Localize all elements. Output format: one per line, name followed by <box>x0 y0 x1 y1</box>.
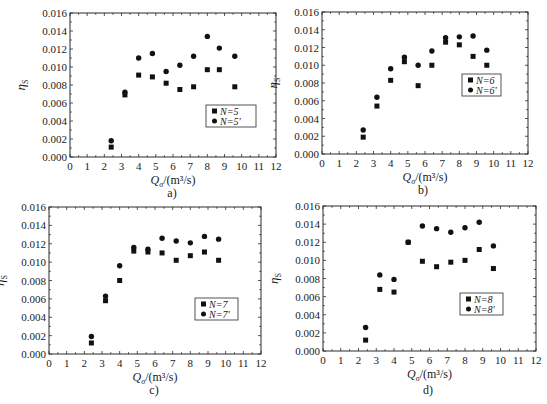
x-tick-label: 3 <box>371 157 377 169</box>
x-tick-label: 11 <box>254 160 265 172</box>
data-point-circle <box>205 34 210 39</box>
x-tick-label: 2 <box>356 354 362 366</box>
data-point-square <box>491 266 496 271</box>
x-tick-label: 5 <box>135 357 141 369</box>
data-point-square <box>420 259 425 264</box>
data-point-circle <box>145 247 150 252</box>
x-tick-label: 12 <box>256 357 267 369</box>
legend-circle-icon <box>212 119 217 124</box>
x-tick-label: 6 <box>422 157 428 169</box>
data-point-square <box>448 260 453 265</box>
chart-panel-d: 01234567891011120.0000.0020.0040.0060.00… <box>266 200 542 397</box>
data-point-square <box>117 278 122 283</box>
x-axis-label: Qσ/(m³/s) <box>407 367 452 383</box>
x-tick-label: 8 <box>205 160 211 172</box>
data-point-circle <box>484 47 489 52</box>
y-tick-label: 0.010 <box>42 61 67 73</box>
data-point-square <box>361 135 366 140</box>
data-point-circle <box>361 127 366 132</box>
data-point-square <box>484 63 489 68</box>
data-point-circle <box>391 277 396 282</box>
data-point-circle <box>163 69 168 74</box>
y-tick-label: 0.016 <box>295 200 320 212</box>
y-tick-label: 0.016 <box>294 6 319 18</box>
x-tick-label: 10 <box>495 354 507 366</box>
x-tick-label: 6 <box>152 357 158 369</box>
data-point-circle <box>174 238 179 243</box>
x-tick-label: 9 <box>474 157 480 169</box>
chart-panel-b: 01234567891011120.0000.0020.0040.0060.00… <box>265 6 534 197</box>
x-tick-label: 10 <box>236 160 248 172</box>
data-point-circle <box>131 245 136 250</box>
panel-label: b) <box>418 183 428 197</box>
data-point-circle <box>457 34 462 39</box>
data-point-square <box>109 145 114 150</box>
panel-label: c) <box>149 383 158 397</box>
data-point-circle <box>89 334 94 339</box>
y-tick-label: 0.012 <box>42 43 67 55</box>
data-point-circle <box>159 236 164 241</box>
y-tick-label: 0.004 <box>295 309 320 321</box>
x-tick-label: 9 <box>205 357 211 369</box>
data-point-circle <box>117 263 122 268</box>
data-point-circle <box>434 226 439 231</box>
y-tick-label: 0.004 <box>21 311 46 323</box>
plot-frame <box>323 206 536 351</box>
x-tick-label: 2 <box>102 160 108 172</box>
x-tick-label: 7 <box>445 354 451 366</box>
data-point-square <box>377 287 382 292</box>
x-tick-label: 11 <box>513 354 524 366</box>
data-point-square <box>191 84 196 89</box>
data-point-circle <box>420 223 425 228</box>
data-point-circle <box>363 325 368 330</box>
y-tick-label: 0.012 <box>294 42 319 54</box>
x-tick-label: 5 <box>153 160 159 172</box>
data-point-circle <box>103 293 108 298</box>
data-point-square <box>477 247 482 252</box>
y-tick-label: 0.012 <box>21 238 46 250</box>
x-tick-label: 4 <box>388 157 394 169</box>
data-point-circle <box>232 54 237 59</box>
data-point-square <box>164 81 169 86</box>
y-tick-label: 0.002 <box>295 327 320 339</box>
data-point-circle <box>406 240 411 245</box>
series-square <box>89 249 221 346</box>
data-point-circle <box>388 66 393 71</box>
x-tick-label: 0 <box>320 354 326 366</box>
data-point-circle <box>122 90 127 95</box>
legend-label: N=8' <box>473 304 495 315</box>
plot-frame <box>49 207 261 354</box>
x-tick-label: 5 <box>405 157 411 169</box>
x-tick-label: 1 <box>64 357 70 369</box>
y-tick-label: 0.008 <box>42 79 67 91</box>
y-tick-label: 0.002 <box>21 330 46 342</box>
data-point-square <box>217 67 222 72</box>
data-point-square <box>174 258 179 263</box>
data-point-square <box>392 290 397 295</box>
legend: N=7N=7' <box>195 298 238 320</box>
y-tick-label: 0.004 <box>294 113 319 125</box>
legend-square-icon <box>468 78 473 83</box>
x-tick-label: 7 <box>170 357 176 369</box>
data-point-circle <box>217 45 222 50</box>
data-point-square <box>216 258 221 263</box>
y-tick-label: 0.008 <box>294 77 319 89</box>
y-tick-label: 0.008 <box>295 273 320 285</box>
chart-panel-a: 01234567891011120.0000.0020.0040.0060.00… <box>13 7 282 200</box>
y-tick-label: 0.006 <box>42 97 67 109</box>
panel-label: d) <box>423 383 433 397</box>
x-tick-label: 12 <box>531 354 542 366</box>
data-point-square <box>457 42 462 47</box>
y-tick-label: 0.002 <box>42 133 67 145</box>
x-tick-label: 11 <box>238 357 249 369</box>
data-point-circle <box>136 55 141 60</box>
series-circle <box>89 234 222 340</box>
y-tick-label: 0.012 <box>295 236 320 248</box>
legend-square-icon <box>201 302 206 307</box>
x-tick-label: 3 <box>119 160 125 172</box>
y-tick-label: 0.004 <box>42 115 67 127</box>
y-tick-label: 0.000 <box>21 348 46 360</box>
y-axis-label: ηS <box>0 275 9 286</box>
y-tick-label: 0.010 <box>295 254 320 266</box>
x-tick-label: 3 <box>99 357 105 369</box>
